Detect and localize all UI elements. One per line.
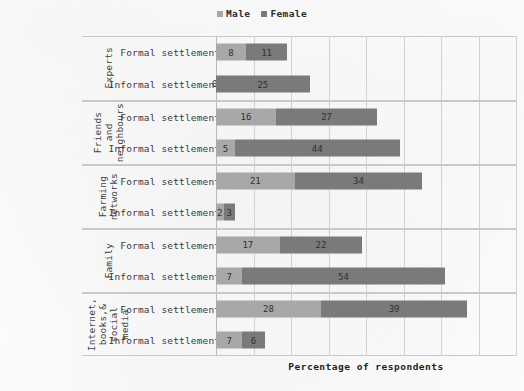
bar-value-label: 22 [316,240,327,250]
bar-value-label: 8 [228,47,233,57]
bar-value-label: 5 [223,143,228,153]
bar-area: 811 [216,36,516,68]
bar-area: 2839 [216,293,516,325]
stacked-bar[interactable]: 811 [216,44,287,61]
bar-value-label: 34 [353,176,364,186]
row-category-label: Informal settlements [46,207,226,218]
bar-area: 544 [216,133,516,165]
bar-segment-female[interactable]: 44 [235,140,400,157]
chart-row: Informal settlements754 [134,261,516,293]
stacked-bar[interactable]: 23 [216,204,235,221]
bar-area: 025 [216,68,516,100]
bar-segment-male[interactable]: 7 [216,332,242,349]
bar-segment-male[interactable]: 8 [216,44,246,61]
chart-row: Informal settlements76 [134,325,516,357]
stacked-bar[interactable]: 2839 [216,300,467,317]
bar-segment-male[interactable]: 2 [216,204,224,221]
group-rows: Formal settlements1722Informal settlemen… [134,229,516,292]
group-rows: Formal settlements811Informal settlement… [134,36,516,100]
bar-segment-female[interactable]: 11 [246,44,287,61]
bar-value-label: 2 [217,207,222,217]
chart-row: Formal settlements1722 [134,229,516,261]
row-category-label: Informal settlements [46,271,226,282]
stacked-bar[interactable]: 25 [216,76,310,93]
row-category-label: Formal settlements [46,239,226,250]
x-axis-title: Percentage of respondents [216,361,516,372]
row-category-label: Informal settlements [46,143,226,154]
bar-segment-female[interactable]: 39 [321,300,467,317]
bar-value-label: 6 [251,335,256,345]
stacked-bar[interactable]: 544 [216,140,400,157]
bar-value-label: 54 [338,271,349,281]
bar-segment-female[interactable]: 25 [216,76,310,93]
chart-row: Formal settlements2134 [134,165,516,197]
row-category-label: Formal settlements [46,175,226,186]
bar-segment-male[interactable]: 28 [216,300,321,317]
bar-value-label: 3 [226,207,231,217]
legend-square-icon [217,11,223,17]
bar-value-label: 44 [312,143,323,153]
bar-segment-female[interactable]: 3 [224,204,235,221]
bar-value-label: 7 [226,335,231,345]
row-category-label: Formal settlements [46,303,226,314]
legend-label-female: Female [270,9,307,19]
gridline [516,36,517,356]
chart-legend: Male Female [0,9,524,19]
bar-value-label: 11 [261,47,272,57]
legend-item-male[interactable]: Male [217,9,250,19]
group-rows: Formal settlements2839Informal settlemen… [134,293,516,356]
bar-segment-female[interactable]: 22 [280,236,363,253]
chart-group: FamilyFormal settlements1722Informal set… [82,228,516,292]
row-category-label: Informal settlements [46,335,226,346]
bar-area: 754 [216,261,516,293]
bar-chart: ExpertsFormal settlements811Informal set… [82,36,516,356]
stacked-bar[interactable]: 76 [216,332,265,349]
stacked-bar[interactable]: 1627 [216,108,377,125]
row-category-label: Formal settlements [46,111,226,122]
bar-value-label: 21 [250,176,261,186]
bar-segment-female[interactable]: 27 [276,108,377,125]
bar-area: 2134 [216,165,516,197]
bar-value-label: 17 [242,240,253,250]
legend-square-icon [261,11,267,17]
row-category-label: Informal settlements [46,79,226,90]
bar-area: 76 [216,325,516,357]
bar-segment-female[interactable]: 54 [242,268,445,285]
stacked-bar[interactable]: 2134 [216,172,422,189]
bar-segment-male[interactable]: 5 [216,140,235,157]
chart-row: Informal settlements025 [134,68,516,100]
bar-segment-male[interactable]: 21 [216,172,295,189]
chart-group: Internet, books,& social mediaFormal set… [82,292,516,356]
chart-group: ExpertsFormal settlements811Informal set… [82,36,516,100]
chart-row: Informal settlements544 [134,133,516,165]
bar-area: 23 [216,197,516,229]
legend-item-female[interactable]: Female [261,9,307,19]
bar-segment-female[interactable]: 6 [242,332,265,349]
bar-value-label: 39 [389,304,400,314]
bar-value-label: 7 [226,271,231,281]
bar-value-label: 27 [321,112,332,122]
bar-value-label: 16 [241,112,252,122]
bar-segment-male[interactable]: 7 [216,268,242,285]
legend-label-male: Male [226,9,250,19]
group-rows: Formal settlements1627Informal settlemen… [134,101,516,164]
stacked-bar[interactable]: 1722 [216,236,362,253]
bar-segment-female[interactable]: 34 [295,172,423,189]
row-category-label: Formal settlements [46,47,226,58]
chart-row: Formal settlements1627 [134,101,516,133]
chart-row: Formal settlements811 [134,36,516,68]
bar-segment-male[interactable]: 17 [216,236,280,253]
chart-group: Farming networksFormal settlements2134In… [82,164,516,228]
chart-row: Informal settlements23 [134,197,516,229]
bar-segment-male[interactable]: 16 [216,108,276,125]
bar-value-label: 28 [263,304,274,314]
bar-area: 1722 [216,229,516,261]
bar-area: 1627 [216,101,516,133]
stacked-bar[interactable]: 754 [216,268,445,285]
bar-value-label: 25 [257,79,268,89]
chart-row: Formal settlements2839 [134,293,516,325]
group-rows: Formal settlements2134Informal settlemen… [134,165,516,228]
chart-group: Friends and neighboursFormal settlements… [82,100,516,164]
